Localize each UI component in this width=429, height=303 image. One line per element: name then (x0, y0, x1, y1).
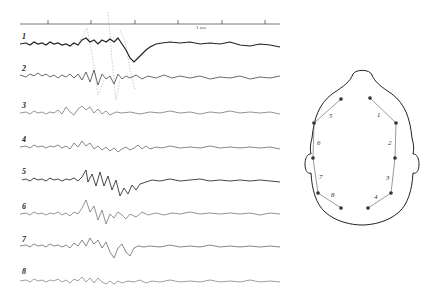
trace-label-2: 2 (22, 65, 26, 73)
trace-7 (20, 238, 280, 258)
right-electrode-chain (366, 96, 397, 209)
trace-3 (20, 106, 280, 115)
trace-label-6: 6 (22, 203, 26, 211)
electrode-label-6: 6 (317, 140, 321, 147)
trace-6 (20, 200, 280, 224)
eeg-figure: 1 sec 1 2 3 4 5 6 7 8 1 2 3 4 5 6 7 8 (0, 0, 429, 303)
trace-1 (20, 38, 280, 62)
electrode-label-5: 5 (329, 113, 333, 120)
time-scale-label: 1 sec (196, 25, 206, 30)
electrode-label-3: 3 (386, 175, 390, 182)
trace-label-8: 8 (22, 268, 26, 276)
electrode-label-1: 1 (377, 112, 381, 119)
trace-label-3: 3 (22, 102, 26, 110)
trace-label-4: 4 (22, 136, 26, 144)
electrode-label-8: 8 (331, 192, 335, 199)
electrode-label-7: 7 (319, 174, 323, 181)
left-electrode-chain (311, 97, 342, 209)
figure-drawing (0, 0, 429, 303)
head-outline (305, 70, 419, 225)
trace-label-1: 1 (22, 33, 26, 41)
trace-5 (22, 170, 280, 196)
trace-4 (20, 141, 280, 152)
trace-2 (20, 70, 280, 85)
time-marker (20, 20, 280, 24)
trace-label-7: 7 (22, 236, 26, 244)
electrode-label-4: 4 (374, 194, 378, 201)
trace-label-5: 5 (22, 168, 26, 176)
electrode-label-2: 2 (388, 140, 392, 147)
head-diagram (305, 70, 419, 225)
trace-8 (20, 277, 280, 284)
overlay-spike-strokes (80, 12, 135, 100)
